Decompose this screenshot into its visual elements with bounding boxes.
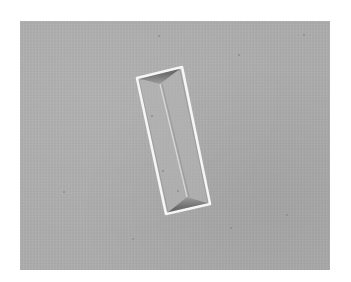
crystal <box>137 67 210 214</box>
crystal-graphic <box>20 21 330 270</box>
micrograph-frame <box>20 21 330 270</box>
